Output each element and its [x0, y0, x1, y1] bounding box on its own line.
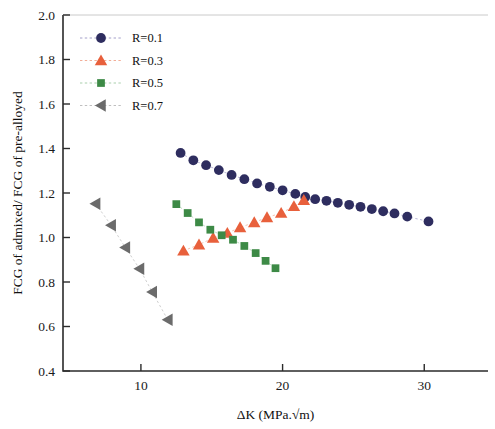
- series-r07: [89, 197, 172, 326]
- legend-item-label: R=0.1: [132, 31, 163, 45]
- x-axis-label: ΔK (MPa.√m): [237, 407, 315, 422]
- data-point-marker: [356, 202, 366, 212]
- data-point-marker: [218, 231, 226, 239]
- data-point-marker: [240, 242, 248, 250]
- y-axis-tick-label: 1.4: [38, 141, 55, 156]
- data-point-marker: [206, 226, 214, 234]
- data-point-marker: [177, 245, 189, 256]
- data-point-marker: [89, 197, 100, 209]
- data-point-marker: [290, 189, 300, 199]
- data-point-marker: [193, 239, 205, 250]
- data-point-marker: [176, 148, 186, 158]
- legend-item-label: R=0.3: [132, 54, 163, 68]
- data-point-marker: [378, 206, 388, 216]
- data-point-marker: [146, 286, 157, 298]
- data-point-marker: [239, 174, 249, 184]
- data-point-marker: [195, 219, 203, 227]
- data-point-marker: [278, 185, 288, 195]
- data-point-marker: [248, 216, 260, 227]
- data-point-marker: [390, 209, 400, 219]
- data-point-marker: [229, 236, 237, 244]
- y-axis-tick-label: 0.8: [38, 275, 55, 290]
- data-point-marker: [162, 314, 173, 326]
- data-point-marker: [424, 217, 434, 227]
- x-axis-tick-label: 30: [418, 378, 432, 393]
- data-point-marker: [252, 179, 262, 189]
- y-axis-tick-label: 1.0: [38, 230, 55, 245]
- x-axis-tick-label: 20: [276, 378, 290, 393]
- data-point-marker: [97, 79, 105, 87]
- data-point-marker: [367, 204, 377, 214]
- data-point-marker: [262, 257, 270, 265]
- data-point-marker: [96, 33, 106, 43]
- data-point-marker: [288, 200, 300, 211]
- data-point-marker: [95, 54, 107, 65]
- data-point-marker: [261, 211, 273, 222]
- data-point-marker: [119, 241, 130, 253]
- data-point-marker: [402, 212, 412, 222]
- y-axis-tick-label: 1.2: [38, 186, 55, 201]
- fcg-ratio-chart: 0.40.60.81.01.21.41.61.82.0102030ΔK (MPa…: [0, 0, 495, 429]
- data-point-marker: [188, 155, 198, 165]
- data-point-marker: [172, 200, 180, 208]
- data-point-marker: [272, 264, 280, 272]
- y-axis-tick-label: 0.4: [38, 364, 55, 379]
- series-connector-line: [96, 204, 168, 320]
- data-point-marker: [201, 160, 211, 170]
- data-point-marker: [184, 209, 192, 217]
- y-axis-tick-label: 2.0: [38, 8, 55, 23]
- legend-item-label: R=0.5: [132, 76, 163, 90]
- data-point-marker: [333, 198, 343, 208]
- chart-legend: R=0.1R=0.3R=0.5R=0.7: [80, 31, 163, 113]
- y-axis-tick-label: 1.6: [38, 97, 55, 112]
- data-point-marker: [133, 262, 144, 274]
- data-point-marker: [105, 219, 116, 231]
- data-point-marker: [322, 196, 332, 206]
- y-axis-label: FCG of admixed/ FCG of pre-alloyed: [10, 91, 25, 295]
- y-axis-tick-label: 0.6: [38, 319, 55, 334]
- y-axis-tick-label: 1.8: [38, 52, 55, 67]
- x-axis-tick-label: 10: [134, 378, 148, 393]
- series-r01: [176, 148, 434, 226]
- data-point-marker: [95, 99, 106, 111]
- data-point-marker: [310, 194, 320, 204]
- data-point-marker: [344, 200, 354, 210]
- data-point-marker: [252, 249, 260, 257]
- data-point-marker: [265, 182, 275, 192]
- chart-canvas: 0.40.60.81.01.21.41.61.82.0102030ΔK (MPa…: [0, 0, 495, 429]
- legend-item-label: R=0.7: [132, 99, 163, 113]
- data-point-marker: [227, 170, 237, 180]
- data-point-marker: [275, 207, 287, 218]
- data-point-marker: [234, 221, 246, 232]
- data-point-marker: [214, 165, 224, 175]
- axis-frame: [63, 15, 488, 371]
